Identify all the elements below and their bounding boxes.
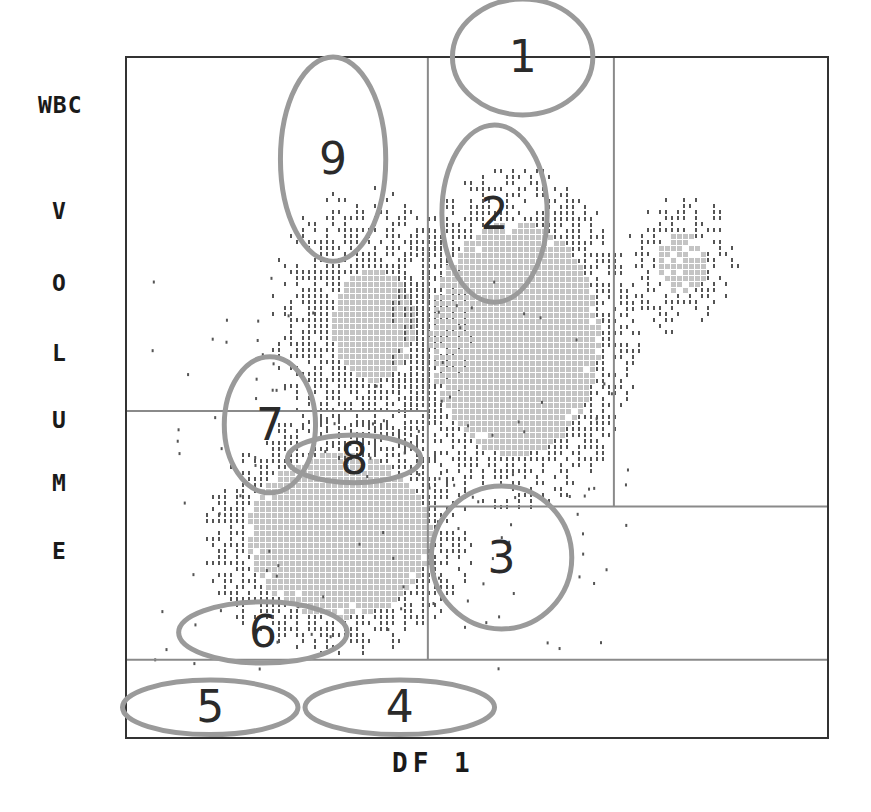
cell-dot [659, 264, 664, 269]
cell-dot [392, 432, 394, 436]
cell-dot [452, 549, 454, 553]
cell-dot [548, 427, 553, 432]
cell-dot [368, 453, 370, 457]
cell-dot [392, 319, 394, 323]
cell-dot [320, 240, 322, 244]
cell-dot [332, 300, 334, 304]
cell-dot [230, 561, 232, 565]
cell-dot [332, 603, 337, 608]
cell-dot [518, 301, 523, 306]
cell-dot [683, 234, 688, 239]
cell-dot [278, 513, 283, 518]
cell-dot [422, 597, 424, 601]
cell-dot [374, 450, 376, 454]
cell-dot [572, 241, 574, 245]
cell-dot [380, 591, 385, 596]
cell-dot [560, 313, 565, 318]
cell-dot [590, 403, 592, 407]
cell-dot [578, 241, 580, 245]
cell-dot [314, 597, 319, 602]
cell-dot [524, 433, 529, 438]
cell-dot [380, 483, 385, 488]
cell-dot [308, 378, 310, 382]
cell-dot [695, 222, 697, 226]
cell-dot [368, 354, 373, 359]
cell-dot [440, 277, 445, 282]
cell-dot [374, 378, 379, 383]
cell-dot [344, 489, 349, 494]
cell-dot [518, 319, 523, 324]
cell-dot [572, 253, 574, 257]
cell-dot [374, 354, 379, 359]
cell-dot [392, 561, 397, 566]
cell-dot [422, 258, 424, 262]
cell-dot [368, 555, 373, 560]
cell-dot [320, 252, 322, 256]
cell-dot [524, 337, 529, 342]
cell-dot [434, 451, 436, 455]
cell-dot [218, 519, 220, 523]
cell-dot [518, 385, 523, 390]
cell-dot [590, 241, 592, 245]
cell-dot [218, 537, 220, 541]
cell-dot [398, 639, 400, 643]
cell-dot [530, 427, 535, 432]
cell-dot [326, 627, 328, 631]
cell-dot [506, 271, 511, 276]
cell-dot [590, 355, 595, 360]
cell-dot [458, 403, 463, 408]
cell-dot [308, 240, 310, 244]
cell-dot [566, 421, 571, 426]
cell-dot [368, 378, 373, 383]
cell-dot [548, 451, 550, 455]
cell-dot [584, 439, 586, 443]
cell-dot [524, 397, 529, 402]
cell-dot [498, 667, 500, 670]
cell-dot [584, 301, 589, 306]
cell-dot [500, 307, 505, 312]
cell-dot [512, 367, 517, 372]
cell-dot [332, 282, 334, 286]
cell-dot [242, 501, 244, 505]
cell-dot [641, 246, 643, 250]
cell-dot [470, 247, 475, 252]
cell-dot [626, 295, 628, 299]
cell-dot [284, 621, 286, 625]
cell-dot [242, 471, 244, 475]
cell-dot [608, 421, 610, 425]
cell-dot [356, 567, 361, 572]
cell-dot [422, 543, 427, 548]
cell-dot [590, 439, 592, 443]
cell-dot [320, 330, 322, 334]
cell-dot [416, 579, 418, 583]
cell-dot [566, 253, 571, 258]
cell-dot [422, 585, 424, 589]
cell-dot [350, 276, 355, 281]
cell-dot [380, 396, 382, 400]
cell-dot [542, 385, 547, 390]
cell-dot [344, 300, 349, 305]
cell-dot [530, 331, 535, 336]
cell-dot [422, 549, 427, 554]
cell-dot [398, 531, 403, 536]
cell-dot [398, 234, 400, 238]
cell-dot [554, 367, 559, 372]
cell-dot [308, 567, 313, 572]
cell-dot [440, 343, 445, 348]
cell-dot [410, 433, 412, 437]
cell-dot [476, 409, 481, 414]
cell-dot [284, 561, 289, 566]
cell-dot [600, 641, 602, 644]
cell-dot [464, 579, 466, 583]
cell-dot [554, 247, 559, 252]
cell-dot [500, 253, 505, 258]
cell-dot [398, 597, 400, 601]
cell-dot [212, 579, 214, 583]
cell-dot [452, 433, 454, 437]
cell-dot [584, 271, 586, 275]
cell-dot [344, 348, 349, 353]
cell-dot [368, 603, 373, 608]
cell-dot [326, 531, 331, 536]
cell-dot [302, 507, 307, 512]
cell-dot [452, 367, 457, 372]
